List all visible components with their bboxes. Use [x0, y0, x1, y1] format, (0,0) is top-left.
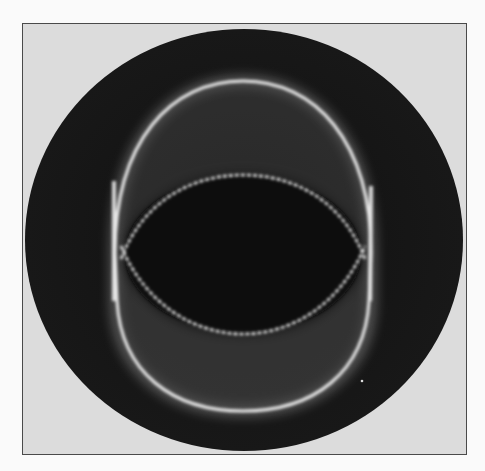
figure-frame: [22, 23, 467, 455]
figure-image: [23, 24, 466, 454]
